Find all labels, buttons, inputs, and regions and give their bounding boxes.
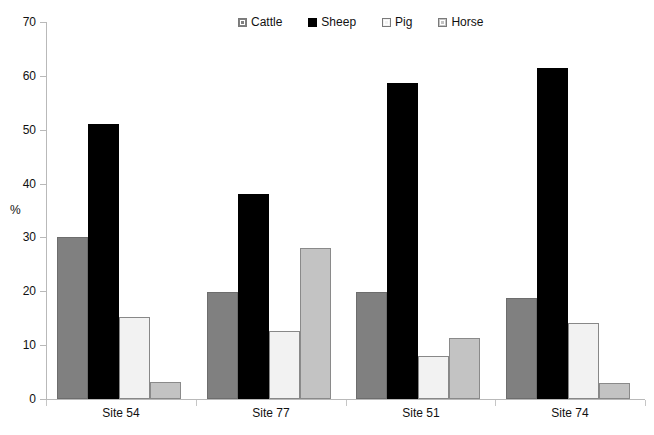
bar-horse-site-77[interactable] xyxy=(300,248,331,399)
y-tick-label: 40 xyxy=(10,178,36,190)
y-tick-label: 0 xyxy=(10,393,36,405)
x-tick-mark xyxy=(645,400,646,406)
bar-cattle-site-74[interactable] xyxy=(506,298,537,399)
x-category-label-site-54: Site 54 xyxy=(46,406,196,420)
y-tick-label: 10 xyxy=(10,339,36,351)
y-tick-label: 70 xyxy=(10,16,36,28)
bar-horse-site-54[interactable] xyxy=(150,382,181,399)
bar-horse-site-74[interactable] xyxy=(599,383,630,399)
y-tick-label: 30 xyxy=(10,231,36,243)
bar-sheep-site-54[interactable] xyxy=(88,124,119,399)
y-tick-label-wrap: 30 xyxy=(0,231,36,243)
y-tick-label-wrap: 70 xyxy=(0,16,36,28)
y-tick-label-wrap: 50 xyxy=(0,124,36,136)
y-tick-label-wrap: 0 xyxy=(0,393,36,405)
bar-cattle-site-51[interactable] xyxy=(356,292,387,399)
y-tick-label-wrap: 20 xyxy=(0,285,36,297)
bar-sheep-site-74[interactable] xyxy=(537,68,568,399)
y-tick-label-wrap: 40 xyxy=(0,178,36,190)
bar-pig-site-51[interactable] xyxy=(418,356,449,399)
bar-sheep-site-77[interactable] xyxy=(238,194,269,399)
plot-area xyxy=(46,22,645,399)
y-tick-label-wrap: 10 xyxy=(0,339,36,351)
x-category-label-site-51: Site 51 xyxy=(346,406,496,420)
bar-pig-site-77[interactable] xyxy=(269,331,300,399)
y-tick-label: 20 xyxy=(10,285,36,297)
y-tick-label-wrap: 60 xyxy=(0,70,36,82)
y-tick-label: 60 xyxy=(10,70,36,82)
x-category-label-site-77: Site 77 xyxy=(196,406,346,420)
bar-pig-site-74[interactable] xyxy=(568,323,599,399)
y-tick-label: 50 xyxy=(10,124,36,136)
bar-pig-site-54[interactable] xyxy=(119,317,150,399)
x-category-label-site-74: Site 74 xyxy=(495,406,645,420)
bar-horse-site-51[interactable] xyxy=(449,338,480,399)
bar-sheep-site-51[interactable] xyxy=(387,83,418,399)
y-axis-title: % xyxy=(10,203,21,217)
bar-chart: CattleSheepPigHorse % 010203040506070 Si… xyxy=(0,0,654,435)
bar-cattle-site-54[interactable] xyxy=(57,237,88,399)
bar-cattle-site-77[interactable] xyxy=(207,292,238,399)
